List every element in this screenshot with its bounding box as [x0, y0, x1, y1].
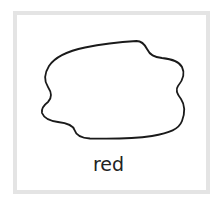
- blob-outline: [42, 41, 184, 139]
- card-label: red: [0, 152, 217, 176]
